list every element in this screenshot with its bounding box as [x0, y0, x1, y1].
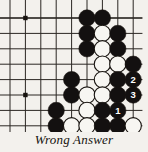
move-number-label: 2 [131, 74, 136, 85]
stone-white[interactable] [94, 56, 110, 72]
stone-disc [94, 87, 110, 103]
stone-disc [94, 41, 110, 57]
stone-black[interactable] [79, 10, 95, 26]
stone-disc [110, 87, 126, 103]
star-point [23, 16, 27, 20]
stone-disc [94, 25, 110, 41]
stone-disc [94, 10, 110, 26]
move-number-label: 1 [115, 105, 121, 116]
figure-caption: Wrong Answer [0, 130, 148, 150]
stone-disc [79, 87, 95, 103]
move-number-label: 3 [131, 89, 136, 100]
stone-black[interactable] [94, 10, 110, 26]
stone-black[interactable] [48, 102, 64, 118]
stone-black[interactable] [110, 41, 126, 57]
stone-disc [94, 71, 110, 87]
stone-disc [94, 102, 110, 118]
stone-disc [94, 56, 110, 72]
go-board[interactable]: 2314 [0, 0, 148, 132]
stone-black[interactable] [110, 25, 126, 41]
stone-disc [125, 56, 141, 72]
stone-black[interactable] [63, 87, 79, 103]
stone-disc [79, 10, 95, 26]
stone-disc [63, 71, 79, 87]
stone-black-1[interactable]: 1 [110, 102, 126, 118]
stone-white[interactable] [110, 56, 126, 72]
stone-disc [79, 25, 95, 41]
stone-black[interactable] [125, 56, 141, 72]
stone-black[interactable] [79, 25, 95, 41]
stone-white[interactable] [94, 87, 110, 103]
stone-black-3[interactable]: 3 [125, 87, 141, 103]
stone-black[interactable] [79, 41, 95, 57]
star-point [23, 93, 27, 97]
stone-disc [110, 25, 126, 41]
stone-disc [79, 41, 95, 57]
stone-disc [63, 87, 79, 103]
stone-disc [110, 71, 126, 87]
stone-black[interactable] [94, 102, 110, 118]
go-board-svg: 2314 [0, 0, 148, 132]
stone-white[interactable] [79, 87, 95, 103]
stone-black[interactable] [110, 87, 126, 103]
stone-white[interactable] [94, 25, 110, 41]
stone-disc [110, 41, 126, 57]
stone-disc [110, 56, 126, 72]
stone-disc [48, 102, 64, 118]
stone-white[interactable] [94, 41, 110, 57]
stone-black[interactable] [63, 71, 79, 87]
go-problem-figure: 2314 Wrong Answer [0, 0, 148, 152]
stone-disc [79, 102, 95, 118]
stone-black[interactable] [110, 71, 126, 87]
stone-black-2[interactable]: 2 [125, 71, 141, 87]
stone-white[interactable] [79, 102, 95, 118]
stone-white[interactable] [94, 71, 110, 87]
